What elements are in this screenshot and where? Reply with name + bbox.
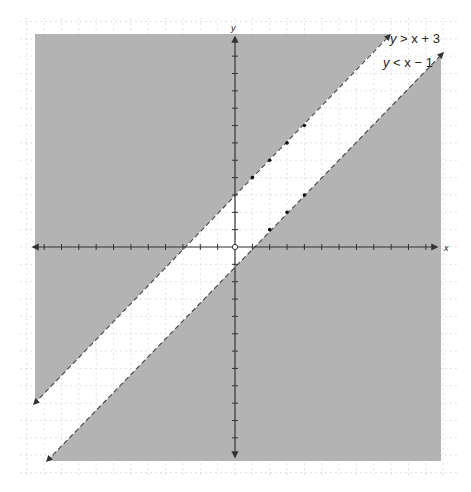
data-point <box>268 228 272 232</box>
inequality-label-lower: y < x − 1 <box>382 55 433 70</box>
inequality-graph: x y y > x + 3 y < x − 1 <box>0 0 471 492</box>
inequality-label-lower-rest: < x − 1 <box>390 55 433 70</box>
inequality-label-upper-rest: > x + 3 <box>397 31 440 46</box>
x-axis-label: x <box>443 243 449 253</box>
data-point <box>303 193 307 197</box>
data-point <box>251 176 255 180</box>
data-point <box>268 158 272 162</box>
data-point <box>285 141 289 145</box>
y-axis-label: y <box>230 23 236 33</box>
origin-marker <box>232 244 237 249</box>
inequality-label-upper: y > x + 3 <box>389 31 440 46</box>
data-point <box>303 124 307 128</box>
data-point <box>285 211 289 215</box>
